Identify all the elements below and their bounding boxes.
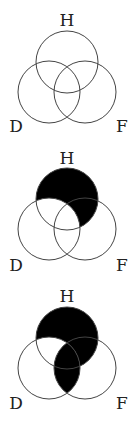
venn-diagram-1: H D F	[9, 10, 128, 136]
label-d: D	[9, 255, 23, 275]
label-h: H	[60, 10, 75, 30]
circle-f	[54, 61, 116, 123]
label-h: H	[60, 148, 75, 168]
circle-d	[18, 61, 80, 123]
label-f: F	[116, 116, 128, 136]
venn-diagram-stack: H D F H D F H D F	[0, 0, 139, 426]
label-d: D	[9, 393, 23, 413]
label-f: F	[116, 393, 128, 413]
label-h: H	[60, 286, 75, 306]
label-f: F	[116, 255, 128, 275]
venn-diagram-3: H D F	[9, 286, 128, 413]
venn-diagram-2: H D F	[9, 148, 128, 275]
label-d: D	[9, 116, 23, 136]
circle-h	[36, 31, 98, 93]
